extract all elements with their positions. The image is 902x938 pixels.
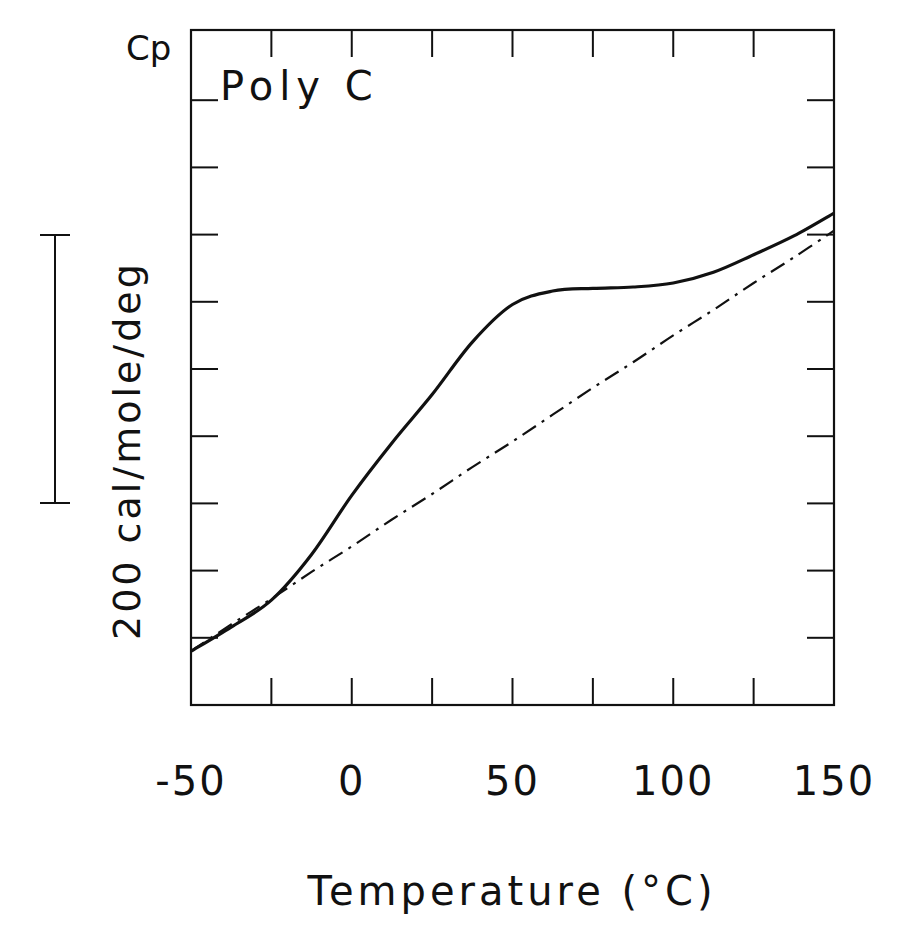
x-tick-label: 50 bbox=[485, 758, 540, 804]
y-axis-ticks bbox=[191, 100, 834, 638]
x-tick-labels: -50050100150 bbox=[155, 758, 875, 804]
x-axis-ticks bbox=[271, 30, 753, 705]
x-tick-label: 100 bbox=[632, 758, 714, 804]
scale-bar bbox=[40, 235, 70, 503]
data-series bbox=[191, 213, 834, 651]
scale-bar-label: 200 cal/mole/deg bbox=[105, 261, 149, 640]
x-tick-label: -50 bbox=[155, 758, 226, 804]
baseline-dashdot-line bbox=[191, 231, 834, 652]
cp-vs-temperature-chart: Cp Poly C 200 cal/mole/deg -50050100150 … bbox=[0, 0, 902, 938]
plot-frame bbox=[191, 30, 834, 705]
y-axis-symbol: Cp bbox=[126, 28, 171, 68]
measured-cp-curve bbox=[191, 213, 834, 651]
plot-title: Poly C bbox=[220, 63, 379, 109]
x-axis-title: Temperature (°C) bbox=[306, 868, 716, 914]
x-tick-label: 0 bbox=[338, 758, 365, 804]
x-tick-label: 150 bbox=[793, 758, 875, 804]
